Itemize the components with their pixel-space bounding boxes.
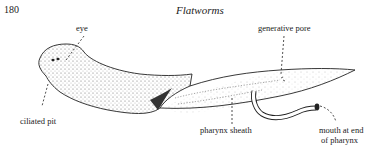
label-mouth-line2: of pharynx [321,136,358,145]
label-generative-pore: generative pore [258,24,311,33]
leader-mouth [320,106,336,122]
label-ciliated-pit: ciliated pit [20,117,56,126]
book-page: 180 Flatworms [0,0,380,152]
label-eye: eye [76,24,88,33]
label-pharynx-sheath: pharynx sheath [200,126,252,135]
leader-ciliated-pit [42,84,48,106]
leader-generative-pore [281,36,284,74]
label-mouth-line1: mouth at end [319,126,363,135]
